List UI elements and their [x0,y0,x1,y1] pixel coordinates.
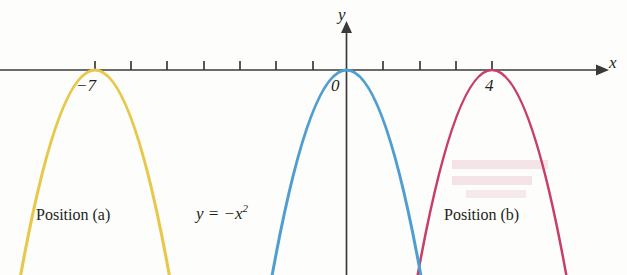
tick-label-four: 4 [485,77,494,94]
tick-label-neg-seven: −7 [76,77,96,94]
caption-position-a: Position (a) [36,207,110,223]
plot-canvas [0,0,627,275]
x-axis-arrowhead [596,65,609,76]
parabola-translation-figure: y x −7 0 4 y = −x2 Position (a) Position… [0,0,627,275]
parabola-curves [21,70,567,275]
axes [0,21,609,275]
scan-ghost-artifacts [452,160,548,198]
tick-label-zero: 0 [331,77,340,94]
equation-exponent: 2 [243,202,249,214]
caption-position-b: Position (b) [444,207,519,223]
curve-position-a [21,70,170,275]
curve-position-b [418,70,567,275]
equation-label: y = −x2 [196,205,248,222]
x-axis-label: x [609,54,617,71]
x-axis-ticks [95,61,492,70]
equation-body: y = −x [196,204,243,223]
y-axis-label: y [338,6,346,23]
